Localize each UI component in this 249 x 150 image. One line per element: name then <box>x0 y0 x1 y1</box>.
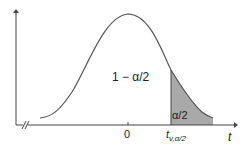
center-area-label: 1 − α/2 <box>112 70 149 84</box>
y-axis-arrow-icon <box>13 9 19 13</box>
axis-break-icon <box>22 121 29 129</box>
zero-tick-label: 0 <box>124 128 130 140</box>
x-axis-arrow-icon <box>234 122 238 128</box>
critical-value-label: tv,α/2 <box>166 128 186 143</box>
x-axis-label: t <box>228 130 231 144</box>
tail-area-label: α/2 <box>172 109 188 121</box>
critical-value-subscript: v,α/2 <box>169 134 186 143</box>
